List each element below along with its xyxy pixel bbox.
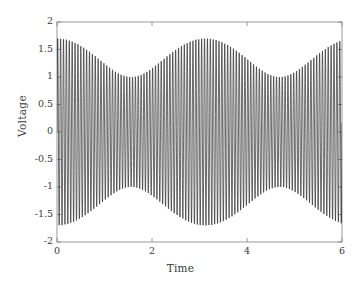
y-tick-label: 2	[23, 15, 53, 26]
figure-canvas: Voltage Time ×10-5 0246-2-1.5-1-0.500.51…	[0, 0, 361, 288]
x-tick-label: 4	[235, 245, 259, 256]
y-tick-label: -2	[23, 235, 53, 246]
y-tick-label: -1	[23, 180, 53, 191]
y-tick-label: 0.5	[23, 98, 53, 109]
x-axis-label: Time	[0, 262, 361, 274]
y-tick-label: -1.5	[23, 208, 53, 219]
x-tick-label: 2	[140, 245, 164, 256]
y-tick-label: 1	[23, 70, 53, 81]
x-tick-label: 0	[45, 245, 69, 256]
x-tick-label: 6	[330, 245, 354, 256]
y-tick-label: 1.5	[23, 43, 53, 54]
y-axis-label: Voltage	[16, 86, 28, 146]
y-tick-label: 0	[23, 125, 53, 136]
y-tick-label: -0.5	[23, 153, 53, 164]
